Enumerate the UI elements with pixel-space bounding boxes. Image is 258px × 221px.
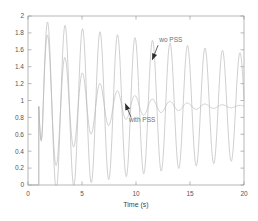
x-axis-tick-labels: 05101520: [26, 190, 248, 197]
oscillation-plot: 05101520 00.20.40.60.811.21.41.61.82 wo …: [0, 0, 258, 221]
y-tick-label: 0: [20, 181, 24, 188]
y-tick-label: 1.6: [15, 46, 24, 53]
x-tick-label: 10: [132, 190, 140, 197]
y-tick-label: 0.4: [15, 148, 24, 155]
data-series-group: [28, 22, 244, 185]
wo-pss-annotation: wo PSS: [152, 36, 183, 60]
y-tick-label: 0.8: [15, 114, 24, 121]
y-tick-label: 1.2: [15, 80, 24, 87]
annotation-label: wo PSS: [158, 36, 183, 43]
y-tick-label: 1.4: [15, 63, 24, 70]
y-axis-tick-labels: 00.20.40.60.811.21.41.61.82: [15, 12, 24, 188]
y-tick-label: 2: [20, 12, 24, 19]
chart-figure: 05101520 00.20.40.60.811.21.41.61.82 wo …: [0, 0, 258, 221]
annotation-label: with PSS: [128, 116, 156, 123]
x-tick-label: 5: [80, 190, 84, 197]
annotation-arrow-head: [125, 103, 130, 110]
y-tick-label: 1.8: [15, 29, 24, 36]
with-pss-annotation: with PSS: [125, 103, 156, 123]
x-tick-label: 20: [240, 190, 248, 197]
x-tick-label: 0: [26, 190, 30, 197]
x-axis-title: Time (s): [123, 201, 148, 209]
y-tick-label: 1: [20, 97, 24, 104]
x-tick-label: 15: [186, 190, 194, 197]
series-line-wo-pss: [28, 22, 244, 185]
plot-axes: 05101520 00.20.40.60.811.21.41.61.82: [15, 12, 248, 197]
y-tick-label: 0.2: [15, 164, 24, 171]
y-tick-label: 0.6: [15, 131, 24, 138]
series-line-with-pss: [28, 35, 244, 185]
